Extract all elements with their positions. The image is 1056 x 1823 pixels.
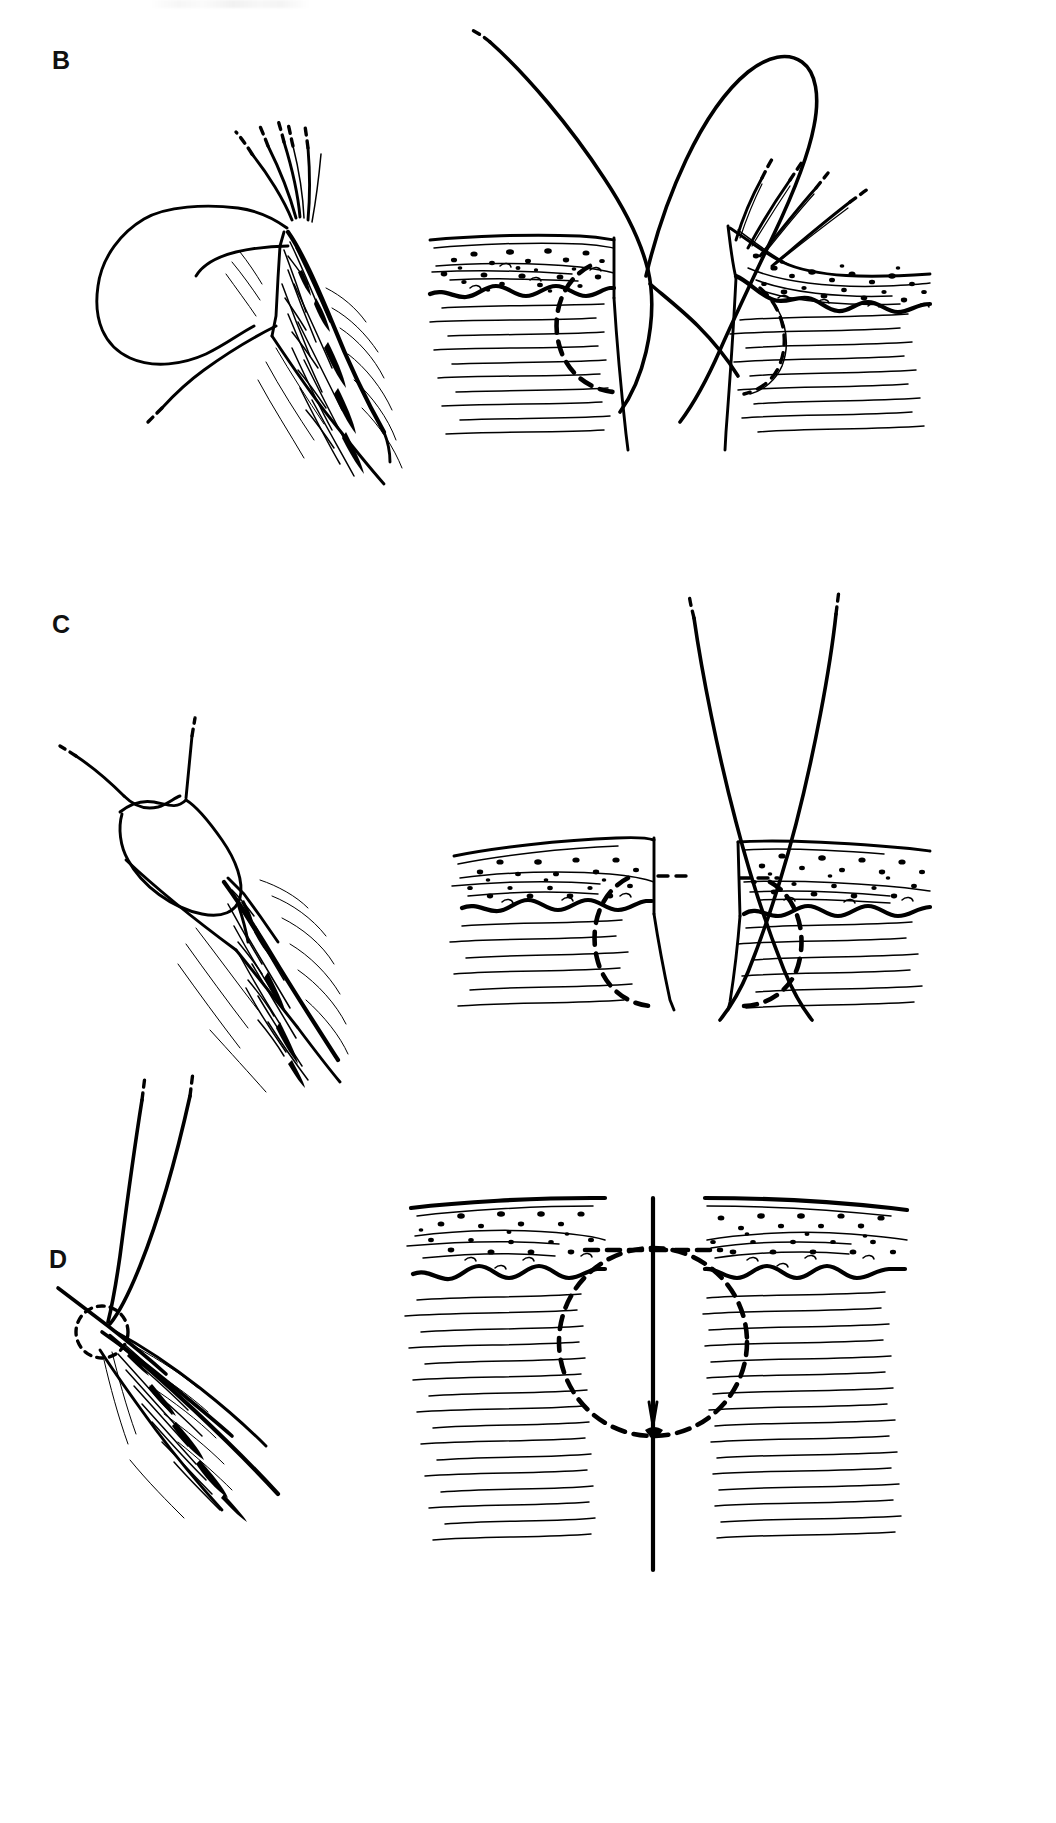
panel-d-right-drawing [395,1190,915,1570]
figure-sheet: B [0,0,1056,1823]
suture-limbs [108,1072,193,1324]
panel-b-left-drawing [40,70,440,460]
panel-c-surgical-field-view [30,560,450,1020]
closed-wound-outline [100,1332,278,1510]
wound-gap-v [654,914,740,1010]
left-skin-block [450,838,654,1006]
dermal-subcutaneous-junction [413,1266,905,1279]
subcutaneous-hatching-right [730,314,924,432]
epidermis-surface [411,1198,907,1216]
suture-crossing [120,796,186,812]
dermal-fiber-lines [407,1230,907,1258]
cropped-caption-artifact [150,0,310,8]
suture-tail [148,326,276,422]
subcutaneous-hatching-right [738,922,922,1008]
panel-b-right-drawing [430,30,930,450]
suture-limbs [689,590,839,1020]
subcutaneous-hatching-left [430,304,610,434]
subcutaneous-hatching-left [450,920,632,1006]
suture-strand-bundle [236,120,321,222]
panel-b-cross-section-view [430,30,930,450]
panel-c-left-drawing [30,560,450,1020]
panel-c-cross-section-view [440,510,930,1010]
needle-path-dashed-arcs [595,876,802,1006]
panel-d-left-drawing [30,1070,370,1540]
dermal-comma-marks [465,1253,874,1269]
panel-c-right-drawing [440,510,930,1010]
suture-loop [97,206,288,364]
panel-d-cross-section-view [395,1190,915,1570]
suture-tails [60,718,195,798]
left-skin-block [430,235,614,434]
panel-b-surgical-field-view [40,70,440,460]
panel-d-surgical-field-view [30,1070,370,1540]
